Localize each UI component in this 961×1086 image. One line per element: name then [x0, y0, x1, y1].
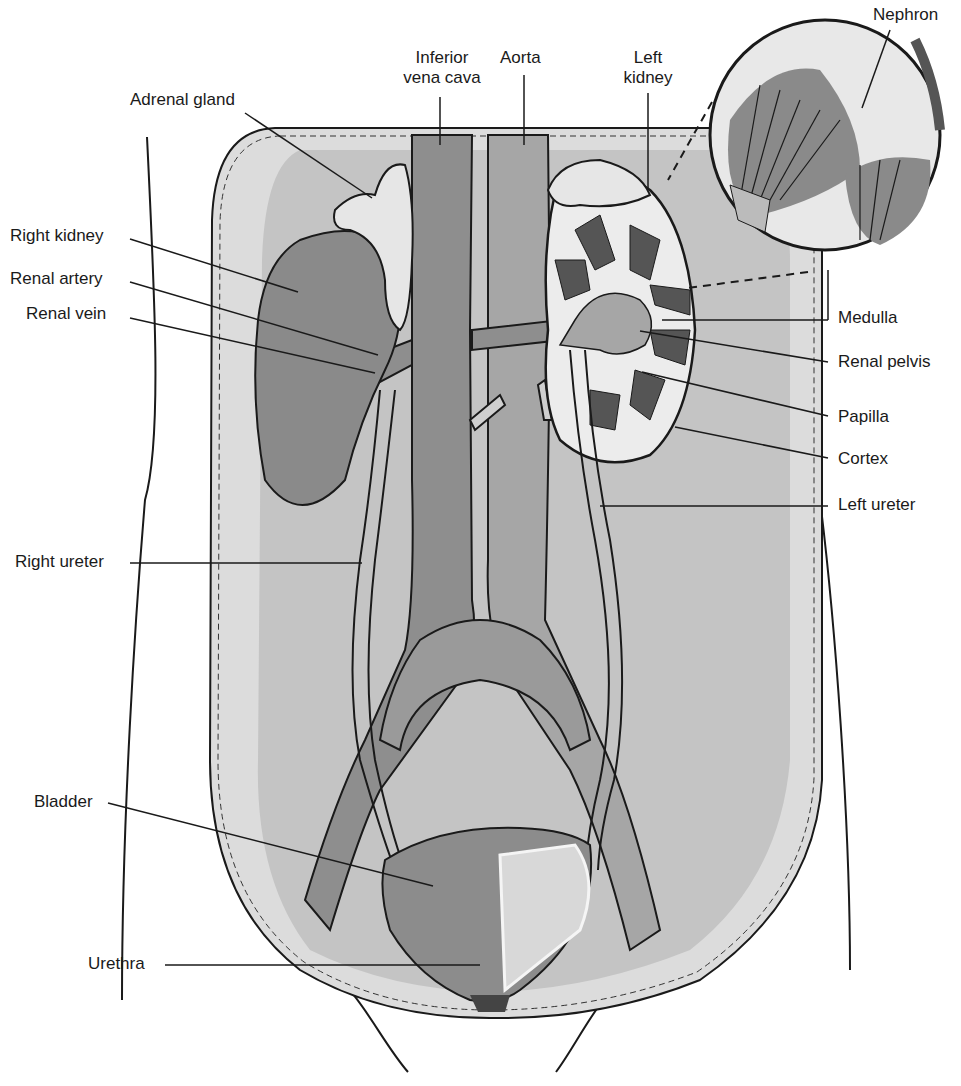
- urinary-system-illustration: [0, 0, 961, 1086]
- label-left-kidney-line2: kidney: [618, 68, 678, 88]
- label-urethra: Urethra: [88, 954, 145, 974]
- label-left-ureter: Left ureter: [838, 495, 916, 515]
- label-medulla: Medulla: [838, 308, 898, 328]
- label-renal-pelvis: Renal pelvis: [838, 352, 931, 372]
- label-bladder: Bladder: [34, 792, 93, 812]
- label-renal-vein: Renal vein: [26, 304, 106, 324]
- label-nephron: Nephron: [873, 5, 938, 25]
- label-papilla: Papilla: [838, 407, 889, 427]
- label-inferior-vena-cava-line2: vena cava: [382, 68, 502, 88]
- label-inferior-vena-cava: Inferior vena cava: [382, 48, 502, 88]
- label-left-kidney: Left kidney: [618, 48, 678, 88]
- nephron-magnification: [710, 20, 940, 250]
- label-left-kidney-line1: Left: [618, 48, 678, 68]
- label-cortex: Cortex: [838, 449, 888, 469]
- label-renal-artery: Renal artery: [10, 269, 103, 289]
- label-right-kidney: Right kidney: [10, 226, 104, 246]
- label-adrenal-gland: Adrenal gland: [130, 90, 235, 110]
- label-inferior-vena-cava-line1: Inferior: [382, 48, 502, 68]
- label-right-ureter: Right ureter: [15, 552, 104, 572]
- label-aorta: Aorta: [500, 48, 541, 68]
